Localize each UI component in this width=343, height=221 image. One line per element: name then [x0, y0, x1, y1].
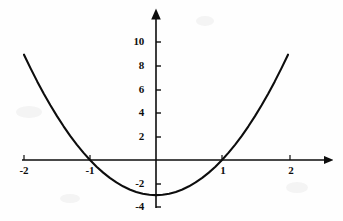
x-tick-label--2: -2: [12, 165, 36, 176]
y-tick-label-6: 6: [118, 84, 144, 95]
y-tick-label-2: 2: [118, 131, 144, 142]
x-tick-label-2: 2: [279, 165, 303, 176]
x-tick-label-1: 1: [211, 165, 235, 176]
y-tick-label-8: 8: [118, 60, 144, 71]
x-tick-label--1: -1: [78, 165, 102, 176]
x-axis-ticks: [24, 155, 290, 160]
y-tick-label--4: -4: [118, 201, 144, 212]
y-tick-label--2: -2: [118, 178, 144, 189]
plot-canvas: [0, 0, 343, 221]
y-tick-label-4: 4: [118, 107, 144, 118]
y-tick-label-10: 10: [118, 36, 144, 47]
parabola-figure: 10 8 6 4 2 -2 -4 -2 -1 1 2: [0, 0, 343, 221]
